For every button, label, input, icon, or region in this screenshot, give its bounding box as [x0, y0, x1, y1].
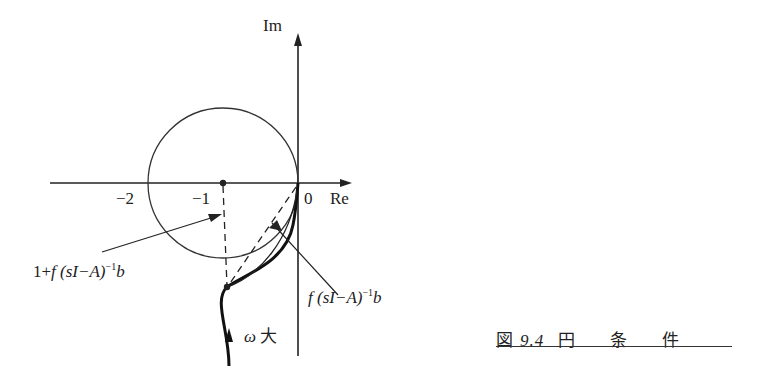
f-symbol: f — [308, 288, 313, 307]
curve-point — [224, 284, 230, 290]
leader-one-plus-arrow-icon — [208, 214, 222, 222]
resolvent: (sI−A) — [60, 262, 105, 281]
inverse-exponent: −1 — [362, 287, 373, 298]
dashed-vector-transfer — [228, 187, 296, 286]
caption-word-1: 円 — [558, 326, 576, 351]
f-symbol: f — [51, 262, 56, 281]
circle-criterion-diagram — [0, 0, 760, 381]
caption-underline — [496, 346, 732, 347]
dashed-vector-one-plus — [223, 186, 227, 286]
caption-word-3: 件 — [662, 326, 680, 351]
caption-number: 9.4 — [520, 331, 544, 350]
minus-one-point — [220, 180, 226, 186]
inverse-exponent: −1 — [106, 261, 117, 272]
leader-one-plus — [102, 217, 214, 252]
real-axis-arrow-icon — [340, 179, 352, 187]
caption-word-2: 条 — [610, 326, 628, 351]
b-symbol: b — [116, 262, 125, 281]
label-transfer: f (sI−A)−1b — [308, 288, 382, 306]
imag-axis-arrow-icon — [294, 33, 302, 46]
tick-zero: 0 — [304, 190, 313, 207]
omega-symbol: ω — [244, 327, 256, 346]
b-symbol: b — [373, 288, 382, 307]
label-omega-large: ω 大 — [244, 328, 277, 345]
imag-axis-label: Im — [263, 17, 282, 34]
leader-transfer — [272, 223, 338, 295]
label-one-plus-transfer: 1+f (sI−A)−1b — [33, 262, 125, 280]
resolvent: (sI−A) — [317, 288, 362, 307]
leader-transfer-arrow-icon — [269, 220, 282, 231]
large-kanji: 大 — [260, 327, 277, 346]
caption-prefix: 図 — [496, 331, 514, 350]
tick-minus-two: −2 — [116, 190, 134, 207]
figure-caption: 図9.4円条件 — [496, 326, 732, 351]
real-axis-label: Re — [330, 190, 349, 207]
tick-minus-one: −1 — [192, 190, 210, 207]
one-plus-prefix: 1+ — [33, 262, 51, 281]
